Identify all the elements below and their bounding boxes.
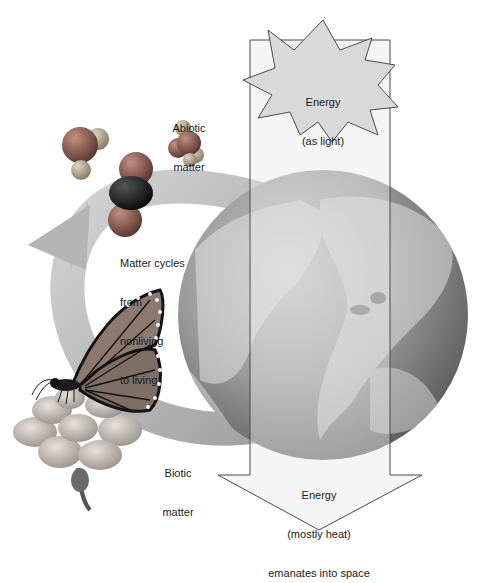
- matter-cycle-label: Matter cycles from nonliving to living: [120, 231, 185, 413]
- water-molecule-icon: [62, 127, 109, 180]
- energy-in-label: Energy (as light): [283, 70, 363, 174]
- cycle-line4: to living: [120, 374, 185, 387]
- cycle-line1: Matter cycles: [120, 257, 185, 270]
- biotic-line2: matter: [153, 506, 203, 519]
- energy-in-line2: (as light): [283, 135, 363, 148]
- cycle-line3: nonliving: [120, 335, 185, 348]
- energy-out-line1: Energy: [259, 489, 379, 502]
- carbon-dioxide-molecule-icon: [108, 152, 153, 237]
- abiotic-line1: Abiotic: [162, 122, 216, 135]
- energy-out-line3: emanates into space: [259, 567, 379, 580]
- cycle-line2: from: [120, 296, 185, 309]
- energy-out-line2: (mostly heat): [259, 528, 379, 541]
- energy-out-label: Energy (mostly heat) emanates into space: [259, 463, 379, 583]
- abiotic-line2: matter: [162, 161, 216, 174]
- abiotic-matter-label: Abiotic matter: [162, 96, 216, 200]
- biotic-line1: Biotic: [153, 467, 203, 480]
- energy-in-line1: Energy: [283, 96, 363, 109]
- biotic-matter-label: Biotic matter: [153, 441, 203, 545]
